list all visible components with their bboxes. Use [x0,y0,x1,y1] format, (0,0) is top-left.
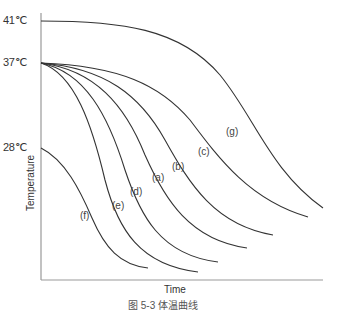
curve-label-f: (f) [80,210,89,221]
curve-g [41,21,323,208]
y-axis-label: Temperature [25,155,36,211]
y-tick-41: 41℃ [3,14,26,27]
y-tick-28: 28℃ [3,141,26,154]
curve-label-b: (b) [172,161,184,172]
curve-f [41,148,148,268]
curve-label-c: (c) [198,146,210,157]
curve-label-g: (g) [226,126,238,137]
curve-label-d: (d) [130,186,142,197]
y-tick-37: 37℃ [3,56,26,69]
curve-label-e: (e) [112,200,124,211]
curve-a [41,63,247,248]
x-axis-label: Time [164,284,186,295]
curve-d [41,63,218,262]
curve-label-a: (a) [152,172,164,183]
curve-b [41,63,273,235]
figure-caption: 图 5-3 体温曲线 [128,297,198,312]
